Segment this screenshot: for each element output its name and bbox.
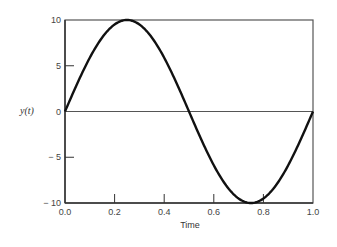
y-tick-label: 5 [56,61,61,71]
x-axis-label: Time [180,220,200,230]
x-tick-label: 0.8 [257,207,270,217]
plot-area: 1050− 5− 100.00.20.40.60.81.0Timey(t) [19,15,319,230]
y-tick-label: − 5 [48,152,61,162]
x-tick-label: 0.4 [158,207,171,217]
x-tick-label: 0.2 [108,207,121,217]
x-tick-label: 0.6 [208,207,221,217]
x-tick-label: 1.0 [307,207,320,217]
sine-chart: 1050− 5− 100.00.20.40.60.81.0Timey(t) [0,0,337,247]
y-tick-label: 0 [56,107,61,117]
y-axis-label: y(t) [19,105,35,117]
y-tick-label: 10 [51,15,61,25]
x-tick-label: 0.0 [59,207,72,217]
